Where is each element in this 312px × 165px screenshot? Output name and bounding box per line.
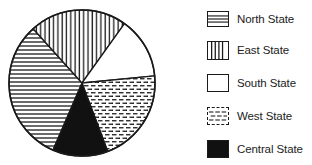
- legend-item-south: South State: [207, 74, 296, 92]
- legend-item-east: East State: [207, 41, 289, 59]
- legend-item-central: Central State: [207, 140, 303, 158]
- legend-label: Central State: [237, 143, 303, 155]
- pie-chart: [0, 0, 165, 165]
- legend-label: South State: [237, 77, 296, 89]
- vertical-lines-swatch-icon: [207, 41, 229, 60]
- legend-item-west: West State: [207, 107, 292, 125]
- legend-item-north: North State: [207, 10, 294, 28]
- horizontal-lines-swatch-icon: [207, 11, 229, 27]
- legend-label: North State: [237, 13, 294, 25]
- dashed-lines-swatch-icon: [207, 107, 229, 125]
- legend-label: West State: [237, 110, 292, 122]
- legend: North State East State South State West …: [207, 0, 312, 165]
- blank-swatch-icon: [207, 74, 229, 92]
- solid-black-swatch-icon: [207, 140, 229, 158]
- legend-label: East State: [237, 44, 289, 56]
